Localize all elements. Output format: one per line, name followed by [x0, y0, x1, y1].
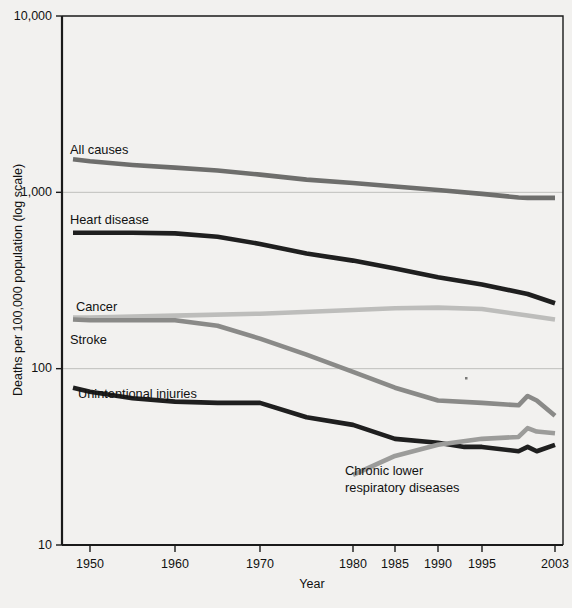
y-tick-label: 10: [38, 538, 52, 552]
x-tick-label: 2003: [541, 557, 569, 571]
series-label-stroke: Stroke: [70, 332, 107, 347]
series-line-cancer: [73, 308, 555, 320]
x-tick-label: 1960: [161, 557, 189, 571]
x-tick-label: 1970: [246, 557, 274, 571]
y-axis-title: Deaths per 100,000 population (log scale…: [11, 164, 25, 396]
x-tick-label: 1950: [76, 557, 104, 571]
y-tick-label: 100: [31, 361, 52, 375]
y-tick-label: 1,000: [21, 185, 52, 199]
x-tick-label: 1985: [381, 557, 409, 571]
annotation-line-1: Chronic lower: [345, 463, 424, 478]
x-tick-label: 1980: [339, 557, 367, 571]
series-label-heart-disease: Heart disease: [70, 212, 149, 227]
x-axis-tick-labels: 19501960197019801985199019952003: [76, 557, 569, 571]
series-inline-labels: All causesHeart diseaseCancerStrokeUnint…: [70, 142, 197, 401]
plot-border: [62, 16, 563, 545]
x-axis-title: Year: [299, 577, 324, 591]
annotation-line-2: respiratory diseases: [345, 480, 460, 495]
x-tick-label: 1995: [468, 557, 496, 571]
y-tick-label: 10,000: [14, 9, 52, 23]
x-tick-label: 1990: [424, 557, 452, 571]
chart-canvas: 10,0001,00010010 19501960197019801985199…: [0, 0, 572, 608]
series-label-unintentional-injuries: Unintentional injuries: [78, 386, 197, 401]
line-chart: 10,0001,00010010 19501960197019801985199…: [0, 0, 572, 608]
chart-annotations: Chronic lowerrespiratory diseases: [345, 463, 460, 495]
series-label-cancer: Cancer: [76, 299, 118, 314]
scan-speck: [465, 377, 468, 380]
series-label-all-causes: All causes: [70, 142, 128, 157]
series-line-heart-disease: [73, 233, 555, 303]
series-layer: [73, 159, 555, 475]
